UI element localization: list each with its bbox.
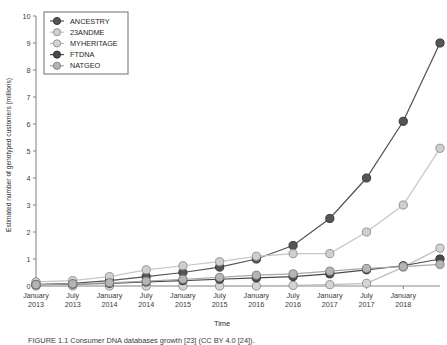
data-point (105, 279, 113, 287)
y-tick-label: 1 (27, 255, 31, 264)
legend-swatch-marker (53, 51, 60, 58)
data-point (289, 241, 297, 249)
data-point (362, 228, 370, 236)
x-tick-label-year: 2015 (175, 300, 191, 309)
y-tick-label: 7 (27, 93, 31, 102)
legend-swatch-marker (53, 62, 60, 69)
data-point (252, 271, 260, 279)
legend-label: NATGEO (70, 61, 101, 70)
legend-swatch-marker (53, 17, 60, 24)
data-point (216, 258, 224, 266)
y-tick-label: 10 (23, 12, 31, 21)
data-point (326, 281, 334, 289)
legend-swatch-marker (53, 29, 60, 36)
y-tick-label: 5 (27, 147, 31, 156)
chart-legend: ANCESTRY23ANDMEMYHERITAGEFTDNANATGEO (44, 12, 128, 74)
data-point (436, 244, 444, 252)
data-point (69, 280, 77, 288)
y-tick-label: 9 (27, 39, 31, 48)
data-point (289, 270, 297, 278)
x-tick-label-year: 2014 (101, 300, 117, 309)
data-point (362, 264, 370, 272)
data-point (289, 281, 297, 289)
y-tick-label: 0 (27, 282, 31, 291)
x-tick-label-year: 2013 (65, 300, 81, 309)
y-tick-label: 2 (27, 228, 31, 237)
data-point (326, 214, 334, 222)
legend-item-ftdna[interactable]: FTDNA (50, 50, 94, 59)
data-point (289, 250, 297, 258)
y-axis-title: Estimated number of genotyped customers … (5, 78, 13, 232)
data-point (362, 279, 370, 287)
y-tick-label: 4 (27, 174, 31, 183)
x-tick-label-year: 2013 (28, 300, 44, 309)
data-point (399, 262, 407, 270)
figure-caption: FIGURE 1.1 Consumer DNA databases growth… (28, 336, 438, 345)
data-point (252, 282, 260, 290)
legend-item-natgeo[interactable]: NATGEO (50, 61, 101, 70)
x-axis-title: Time (214, 319, 230, 328)
y-tick-label: 6 (27, 120, 31, 129)
x-tick-label-year: 2014 (138, 300, 154, 309)
legend-label: MYHERITAGE (70, 39, 118, 48)
legend-item-23andme[interactable]: 23ANDME (50, 28, 105, 37)
data-point (179, 262, 187, 270)
x-tick-label-year: 2015 (212, 300, 228, 309)
legend-swatch-marker (53, 40, 60, 47)
x-tick-label-year: 2016 (285, 300, 301, 309)
data-point (252, 252, 260, 260)
data-point (32, 281, 40, 289)
data-point (399, 201, 407, 209)
legend-label: 23ANDME (70, 28, 105, 37)
data-point (326, 267, 334, 275)
legend-label: FTDNA (70, 50, 94, 59)
legend-label: ANCESTRY (70, 17, 110, 26)
data-point (436, 260, 444, 268)
x-tick-label-year: 2018 (395, 300, 411, 309)
data-point (179, 275, 187, 283)
data-point (142, 277, 150, 285)
data-point (142, 266, 150, 274)
data-point (436, 39, 444, 47)
y-tick-label: 3 (27, 201, 31, 210)
y-tick-label: 8 (27, 66, 31, 75)
data-point (216, 273, 224, 281)
x-tick-label-year: 2017 (322, 300, 338, 309)
data-point (436, 144, 444, 152)
x-tick-label-year: 2016 (248, 300, 264, 309)
data-point (399, 117, 407, 125)
data-point (362, 174, 370, 182)
x-tick-label-year: 2017 (359, 300, 375, 309)
data-point (326, 250, 334, 258)
legend-item-ancestry[interactable]: ANCESTRY (50, 17, 110, 26)
